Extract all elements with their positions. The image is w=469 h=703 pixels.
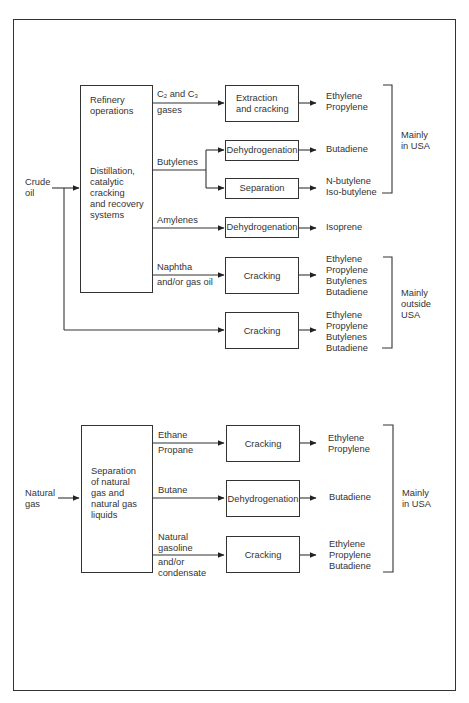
product: Propylene <box>329 550 371 561</box>
products-2: Butadiene <box>326 144 368 155</box>
products-1: Ethylene Propylene <box>326 91 368 113</box>
dehydrogenation-2-text: Dehydrogenation <box>226 222 298 233</box>
stream-line4: condensate <box>158 568 206 579</box>
separation-natural-gas-text: Separation of natural gas and natural ga… <box>91 466 137 521</box>
stream-amylenes: Amylenes <box>157 215 198 226</box>
stream-line3: and/or <box>158 557 206 568</box>
product: Ethylene <box>326 310 368 321</box>
stream-line2: gasoline <box>158 543 193 554</box>
refinery-line1: Refinery <box>90 95 133 106</box>
products-5: Ethylene Propylene Butylenes Butadiene <box>326 254 368 298</box>
natgas-label-line2: gas <box>25 499 55 510</box>
extraction-cracking-box: Extraction and cracking <box>225 85 299 122</box>
product: Propylene <box>328 444 370 455</box>
region-line2: in USA <box>401 141 430 152</box>
dehydrogenation-box-1: Dehydrogenation <box>225 140 299 161</box>
natgas-dehydrogenation-box: Dehydrogenation <box>226 480 300 517</box>
region-line1: Mainly <box>401 130 430 141</box>
natgas-label-line1: Natural <box>25 488 55 499</box>
stream-propane: Propane <box>158 445 193 456</box>
product: Propylene <box>326 102 368 113</box>
product: Propylene <box>326 265 368 276</box>
sep-line5: liquids <box>91 510 137 521</box>
extraction-text: Extraction and cracking <box>236 93 289 115</box>
stream-condensate: and/or condensate <box>158 557 206 579</box>
natgas-cracking-1-text: Cracking <box>227 439 299 450</box>
product: Iso-butylene <box>326 187 377 198</box>
stream-butylenes: Butylenes <box>157 157 198 168</box>
separation-box: Separation <box>225 178 299 199</box>
natgas-dehydrogenation-text: Dehydrogenation <box>227 494 299 505</box>
stream-naphtha: Naphtha <box>157 262 192 273</box>
refinery-line2: operations <box>90 106 133 117</box>
cracking-box-2: Cracking <box>225 312 299 349</box>
region-line1: Mainly <box>401 288 431 299</box>
stream-butane: Butane <box>158 485 187 496</box>
refinery-operations-text: Refinery operations <box>90 95 133 117</box>
cracking-box-1: Cracking <box>225 257 299 294</box>
product: Propylene <box>326 321 368 332</box>
natgas-products-3: Ethylene Propylene Butadiene <box>329 539 371 572</box>
distillation-line1: Distillation, <box>90 166 144 177</box>
natgas-cracking-box-2: Cracking <box>226 536 300 573</box>
sep-line2: of natural <box>91 477 137 488</box>
natgas-products-2: Butadiene <box>329 492 371 503</box>
distillation-line2: catalytic <box>90 177 144 188</box>
c2c3-c: C <box>157 89 164 99</box>
extraction-line1: Extraction <box>236 93 289 104</box>
product: Butylenes <box>326 332 368 343</box>
crude-oil-label: Crude oil <box>25 177 50 199</box>
natgas-products-1: Ethylene Propylene <box>328 433 370 455</box>
distillation-line5: systems <box>90 210 144 221</box>
stream-ethane: Ethane <box>158 430 187 441</box>
sep-line4: natural gas <box>91 499 137 510</box>
product: Butadiene <box>329 561 371 572</box>
region-line1: Mainly <box>402 488 431 499</box>
separation-natural-gas-box: Separation of natural gas and natural ga… <box>81 425 153 573</box>
natural-gas-label: Natural gas <box>25 488 55 510</box>
crude-label-line2: oil <box>25 188 50 199</box>
dehydrogenation-1-text: Dehydrogenation <box>226 145 298 156</box>
stream-natural-gasoline: Natural gasoline <box>158 532 193 554</box>
products-3: N-butylene Iso-butylene <box>326 176 377 198</box>
region-line2: in USA <box>402 499 431 510</box>
stream-c2-c3: C2 and C3 <box>157 89 198 102</box>
product: Butylenes <box>326 276 368 287</box>
extraction-line2: and cracking <box>236 104 289 115</box>
stream-line1: Natural <box>158 532 193 543</box>
sep-line3: gas and <box>91 488 137 499</box>
product: Ethylene <box>326 91 368 102</box>
region-mainly-in-usa-1: Mainly in USA <box>401 130 430 152</box>
product: N-butylene <box>326 176 377 187</box>
distillation-text: Distillation, catalytic cracking and rec… <box>90 166 144 221</box>
products-4: Isoprene <box>326 222 362 233</box>
distillation-line4: and recovery <box>90 199 144 210</box>
c2c3-and-c: and C <box>167 89 194 99</box>
product: Ethylene <box>326 254 368 265</box>
cracking-2-text: Cracking <box>226 326 298 337</box>
natgas-cracking-2-text: Cracking <box>227 550 299 561</box>
c2c3-sub2: 3 <box>194 93 197 99</box>
sep-line1: Separation <box>91 466 137 477</box>
region-line2: outside <box>401 299 431 310</box>
dehydrogenation-box-2: Dehydrogenation <box>225 217 299 238</box>
stream-gases: gases <box>157 105 182 116</box>
separation-text: Separation <box>226 183 298 194</box>
region-mainly-outside-usa: Mainly outside USA <box>401 288 431 321</box>
cracking-1-text: Cracking <box>226 271 298 282</box>
refinery-box: Refinery operations Distillation, cataly… <box>80 85 153 293</box>
product: Butadiene <box>326 287 368 298</box>
natgas-cracking-box-1: Cracking <box>226 425 300 462</box>
product: Ethylene <box>328 433 370 444</box>
distillation-line3: cracking <box>90 188 144 199</box>
region-line3: USA <box>401 310 431 321</box>
crude-label-line1: Crude <box>25 177 50 188</box>
region-mainly-in-usa-2: Mainly in USA <box>402 488 431 510</box>
stream-gas-oil: and/or gas oil <box>157 277 213 288</box>
product: Ethylene <box>329 539 371 550</box>
products-6: Ethylene Propylene Butylenes Butadiene <box>326 310 368 354</box>
product: Butadiene <box>326 343 368 354</box>
